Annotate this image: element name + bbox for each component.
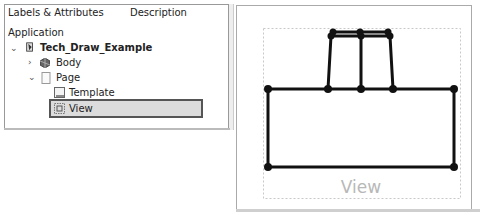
view-label: View bbox=[336, 177, 386, 197]
technical-drawing-view[interactable] bbox=[0, 0, 480, 215]
drawing-edges bbox=[268, 32, 454, 167]
